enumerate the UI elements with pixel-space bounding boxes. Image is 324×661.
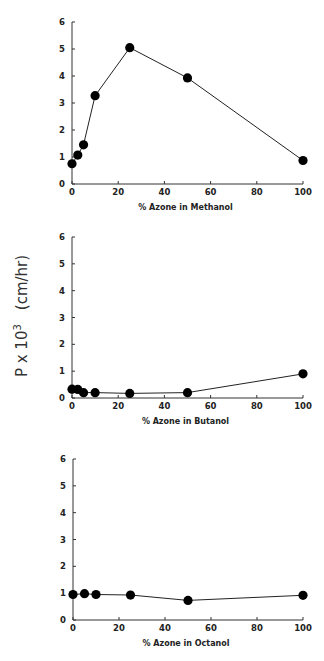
data-point-marker xyxy=(73,151,82,160)
data-point-marker xyxy=(79,140,88,149)
x-tick-label: 80 xyxy=(251,187,263,197)
y-tick-label: 4 xyxy=(59,71,65,81)
axes: 0123456020406080100% Azone in Methanol xyxy=(59,17,312,212)
axes: 0123456020406080100% Azone in Butanol xyxy=(59,232,312,426)
y-tick-label: 0 xyxy=(59,179,65,189)
x-tick-label: 0 xyxy=(69,401,75,411)
x-tick-label: 40 xyxy=(159,623,171,633)
y-tick-label: 2 xyxy=(60,561,66,571)
x-tick-label: 60 xyxy=(205,401,217,411)
y-tick-label: 1 xyxy=(60,588,66,598)
y-tick-label: 1 xyxy=(59,366,65,376)
chart-butanol: 0123456020406080100% Azone in Butanol xyxy=(59,232,312,426)
shared-y-axis-label: P x 103(cm/hr) xyxy=(12,255,31,377)
y-tick-label: 3 xyxy=(59,98,65,108)
y-tick-label: 0 xyxy=(59,393,65,403)
y-tick-label: 4 xyxy=(60,508,66,518)
chart-methanol: 0123456020406080100% Azone in Methanol xyxy=(59,17,312,212)
figure: P x 103(cm/hr) 0123456020406080100% Azon… xyxy=(0,0,324,661)
y-tick-label: 1 xyxy=(59,152,65,162)
data-point-marker xyxy=(91,388,100,397)
x-tick-label: 20 xyxy=(112,187,124,197)
y-tick-label: 3 xyxy=(60,535,66,545)
data-point-marker xyxy=(80,589,89,598)
data-point-marker xyxy=(126,590,135,599)
data-point-marker xyxy=(183,388,192,397)
y-tick-label: 5 xyxy=(59,44,65,54)
y-tick-label: 5 xyxy=(60,481,66,491)
x-tick-label: 60 xyxy=(205,623,217,633)
data-point-marker xyxy=(298,369,307,378)
x-tick-label: 60 xyxy=(205,187,217,197)
x-tick-label: 100 xyxy=(294,623,312,633)
y-tick-label: 2 xyxy=(59,339,65,349)
x-axis-title: % Azone in Methanol xyxy=(138,203,233,212)
y-tick-label: 3 xyxy=(59,313,65,323)
x-tick-label: 0 xyxy=(70,623,76,633)
x-tick-label: 0 xyxy=(69,187,75,197)
y-tick-label: 4 xyxy=(59,286,65,296)
x-tick-label: 100 xyxy=(294,401,312,411)
y-tick-label: 2 xyxy=(59,125,65,135)
x-tick-label: 100 xyxy=(294,187,312,197)
data-point-marker xyxy=(183,596,192,605)
data-point-marker xyxy=(183,73,192,82)
data-point-marker xyxy=(91,590,100,599)
svg-text:P x 103(cm/hr): P x 103(cm/hr) xyxy=(12,255,31,377)
x-tick-label: 20 xyxy=(113,623,125,633)
y-tick-label: 6 xyxy=(59,232,65,242)
x-axis-title: % Azone in Octanol xyxy=(143,639,230,648)
data-point-marker xyxy=(67,159,76,168)
data-point-marker xyxy=(91,91,100,100)
data-point-marker xyxy=(125,389,134,398)
x-tick-label: 80 xyxy=(251,623,263,633)
data-point-marker xyxy=(298,156,307,165)
y-tick-label: 6 xyxy=(59,17,65,27)
x-tick-label: 40 xyxy=(158,187,170,197)
y-tick-label: 0 xyxy=(60,615,66,625)
series-line xyxy=(72,48,303,164)
data-point-marker xyxy=(298,591,307,600)
data-point-marker xyxy=(68,590,77,599)
x-tick-label: 80 xyxy=(251,401,263,411)
data-point-marker xyxy=(79,388,88,397)
axes: 0123456020406080100% Azone in Octanol xyxy=(60,454,312,648)
x-tick-label: 20 xyxy=(112,401,124,411)
chart-octanol: 0123456020406080100% Azone in Octanol xyxy=(60,454,312,648)
x-axis-title: % Azone in Butanol xyxy=(142,417,229,426)
x-tick-label: 40 xyxy=(158,401,170,411)
data-point-marker xyxy=(125,43,134,52)
y-tick-label: 5 xyxy=(59,259,65,269)
y-tick-label: 6 xyxy=(60,454,66,464)
